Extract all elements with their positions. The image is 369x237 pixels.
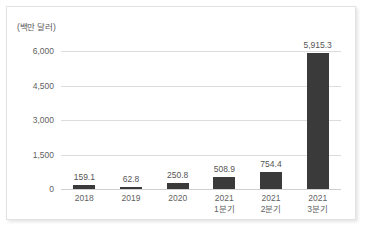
x-tick-label: 20213분기 (307, 193, 328, 214)
bar[interactable] (260, 172, 282, 189)
bar-group[interactable]: 754.420212분기 (248, 51, 294, 189)
bar-value-label: 508.9 (214, 164, 235, 174)
gridline-0: 0 (61, 189, 341, 190)
y-tick-label: 4,500 (33, 81, 54, 91)
bar-group[interactable]: 62.82019 (108, 51, 154, 189)
bar[interactable] (307, 53, 329, 189)
bar-group[interactable]: 159.12018 (61, 51, 107, 189)
x-tick-label: 2018 (75, 193, 94, 204)
y-tick-label: 3,000 (33, 115, 54, 125)
bar-value-label: 62.8 (123, 174, 140, 184)
bar-group[interactable]: 5,915.320213분기 (295, 51, 341, 189)
x-tick-label: 2019 (122, 193, 141, 204)
bar[interactable] (167, 183, 189, 189)
x-tick-label: 2020 (168, 193, 187, 204)
bar-value-label: 5,915.3 (303, 40, 331, 50)
x-tick-label: 20212분기 (261, 193, 282, 214)
plot-area: 01,5003,0004,5006,000 159.1201862.820192… (61, 51, 341, 189)
bar[interactable] (73, 185, 95, 189)
y-tick-label: 0 (49, 184, 54, 194)
bar[interactable] (213, 177, 235, 189)
bar[interactable] (120, 187, 142, 189)
bar-value-label: 159.1 (74, 172, 95, 182)
y-axis-unit-label: (백만 달러) (17, 20, 56, 32)
y-tick-label: 6,000 (33, 46, 54, 56)
chart-frame: (백만 달러) 01,5003,0004,5006,000 159.120186… (6, 6, 356, 220)
bar-group[interactable]: 250.82020 (155, 51, 201, 189)
y-tick-label: 1,500 (33, 150, 54, 160)
bar-value-label: 754.4 (260, 159, 281, 169)
bar-group[interactable]: 508.920211분기 (201, 51, 247, 189)
bars-layer: 159.1201862.82019250.82020508.920211분기75… (61, 51, 341, 189)
x-tick-label: 20211분기 (214, 193, 235, 214)
bar-value-label: 250.8 (167, 170, 188, 180)
